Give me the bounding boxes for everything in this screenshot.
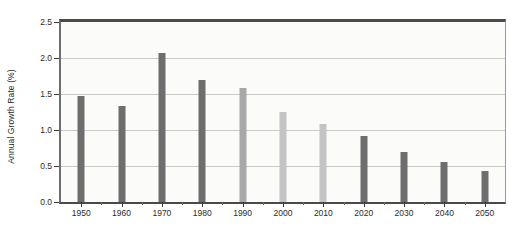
x-axis-tick-label: 2000 (260, 208, 306, 218)
bar (78, 96, 85, 202)
x-axis-tick-mark (162, 202, 163, 207)
x-axis-minor-tick-mark (424, 202, 425, 205)
x-axis-tick-mark (202, 202, 203, 207)
x-axis-minor-tick-mark (344, 202, 345, 205)
bar (401, 152, 408, 202)
x-axis-minor-tick-mark (101, 202, 102, 205)
x-axis-tick-label: 1950 (58, 208, 104, 218)
bar (481, 171, 488, 202)
gridline (61, 58, 505, 59)
y-axis-tick-label: 2.0 (26, 53, 52, 63)
x-axis-tick-label: 2010 (300, 208, 346, 218)
gridline (61, 94, 505, 95)
x-axis-minor-tick-mark (263, 202, 264, 205)
bar (441, 162, 448, 202)
x-axis-minor-tick-mark (465, 202, 466, 205)
bar (118, 106, 125, 202)
bar-chart: Annual Growth Rate (%) 0.00.51.01.52.02.… (0, 0, 525, 233)
bar (280, 112, 287, 202)
x-axis-tick-label: 2030 (381, 208, 427, 218)
x-axis-tick-label: 2020 (341, 208, 387, 218)
x-axis-minor-tick-mark (303, 202, 304, 205)
y-axis-tick-label: 1.5 (26, 89, 52, 99)
bar (239, 88, 246, 202)
x-axis-minor-tick-mark (384, 202, 385, 205)
x-axis-tick-mark (283, 202, 284, 207)
bar (360, 136, 367, 202)
y-axis-tick-label: 0.0 (26, 197, 52, 207)
x-axis-tick-label: 1970 (139, 208, 185, 218)
bar (158, 53, 165, 202)
y-axis-tick-label: 2.5 (26, 17, 52, 27)
bar (320, 124, 327, 202)
x-axis-minor-tick-mark (142, 202, 143, 205)
y-axis-title: Annual Growth Rate (%) (0, 0, 22, 233)
x-axis-tick-mark (243, 202, 244, 207)
x-axis-tick-mark (323, 202, 324, 207)
x-axis-tick-mark (485, 202, 486, 207)
x-axis-minor-tick-mark (222, 202, 223, 205)
x-axis-tick-label: 2040 (421, 208, 467, 218)
x-axis-tick-labels: 1950196019701980199020002010202020302040… (59, 208, 506, 228)
x-axis-tick-mark (364, 202, 365, 207)
y-axis-tick-label: 1.0 (26, 125, 52, 135)
x-axis-tick-label: 2050 (462, 208, 508, 218)
x-axis-tick-label: 1990 (220, 208, 266, 218)
plot-area (59, 19, 506, 204)
x-axis-tick-label: 1980 (179, 208, 225, 218)
x-axis-tick-mark (404, 202, 405, 207)
x-axis-tick-mark (444, 202, 445, 207)
y-axis-tick-label: 0.5 (26, 161, 52, 171)
x-axis-tick-mark (81, 202, 82, 207)
bar (199, 80, 206, 202)
x-axis-minor-tick-mark (182, 202, 183, 205)
y-axis-tick-labels: 0.00.51.01.52.02.5 (22, 0, 52, 233)
x-axis-tick-mark (122, 202, 123, 207)
x-axis-tick-label: 1960 (99, 208, 145, 218)
